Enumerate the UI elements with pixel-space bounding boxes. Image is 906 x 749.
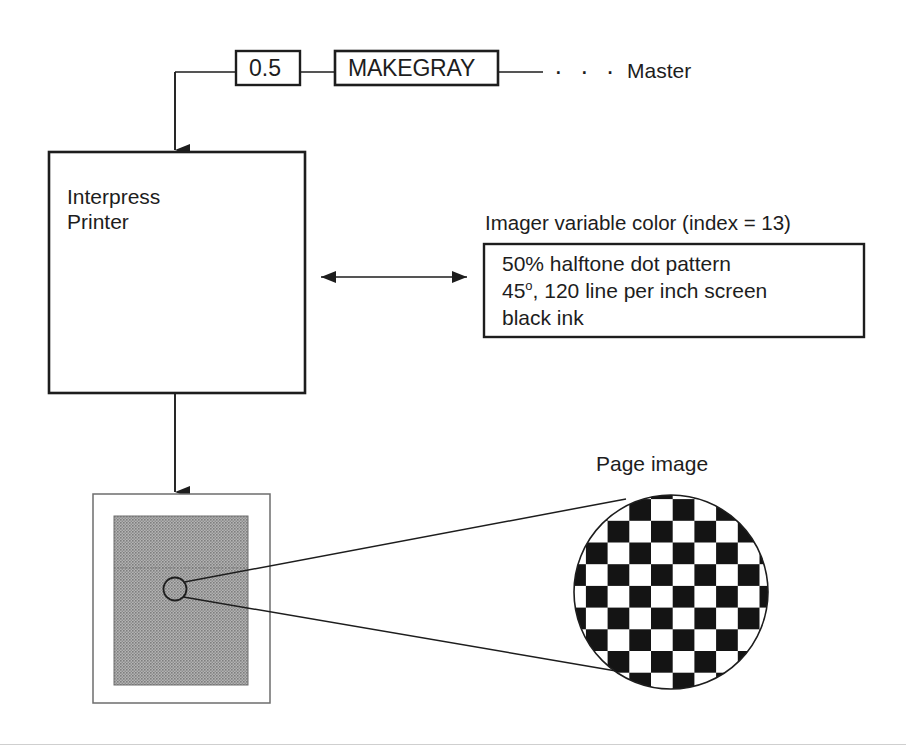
- value-box-label: 0.5: [249, 55, 281, 82]
- page-gray-area: [114, 516, 248, 685]
- operator-box-label: MAKEGRAY: [348, 55, 475, 82]
- imager-color-line-1: 50% halftone dot pattern: [502, 250, 731, 277]
- printer-label-line1: Interpress: [67, 185, 160, 210]
- imager-color-line-2-suffix: , 120 line per inch screen: [533, 279, 768, 302]
- imager-color-caption: Imager variable color (index = 13): [485, 211, 791, 235]
- imager-color-line-2-prefix: 45: [502, 279, 525, 302]
- diagram-vector-layer: [0, 0, 906, 749]
- degree-symbol-icon: o: [525, 278, 532, 293]
- imager-color-line-2: 45o, 120 line per inch screen: [502, 277, 767, 304]
- imager-color-line-3: black ink: [502, 304, 584, 331]
- ellipsis-label: · · ·: [554, 56, 619, 87]
- printer-label-line2: Printer: [67, 210, 129, 235]
- footer-divider: [0, 744, 906, 745]
- diagram-canvas: 0.5 MAKEGRAY · · · Master Interpress Pri…: [0, 0, 906, 749]
- magnified-halftone-circle: [570, 490, 775, 695]
- page-image-label: Page image: [596, 452, 708, 477]
- master-label: Master: [627, 59, 691, 84]
